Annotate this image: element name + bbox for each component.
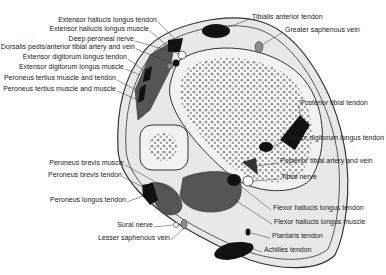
- label-greater-saphenous-vein: Greater saphenous vein: [285, 26, 360, 34]
- tibialis-anterior-tendon: [202, 24, 230, 38]
- greater-saphenous-vein: [255, 42, 263, 53]
- label-fhl-tendon: Flexor hallucis longus tendon: [273, 204, 364, 212]
- label-fdl-tendon: Flexor digitorum longus tendon: [288, 134, 384, 142]
- label-tibial-nerve: Tibial nerve: [281, 173, 317, 181]
- fibula-trabecular: [149, 133, 177, 161]
- label-edl-tendon: Extensor digitorum longus tendon: [23, 53, 127, 61]
- label-lesser-saphenous-vein: Lesser saphenous vein: [98, 234, 170, 242]
- label-ehl-muscle: Extensor hallucis longus muscle: [49, 25, 149, 33]
- lesser-saphenous-vein: [181, 220, 187, 229]
- label-posterior-tibial-artery-vein: Posterior tibial artery and vein: [280, 157, 373, 165]
- label-tibialis-anterior-tendon: Tibialis anterior tendon: [252, 13, 323, 21]
- label-ehl-tendon: Extensor hallucis longus tendon: [58, 16, 157, 24]
- fdl-tendon: [259, 142, 273, 152]
- dorsalis-pedis-artery: [173, 60, 180, 67]
- label-fhl-muscle: Flexor hallucis longus muscle: [274, 218, 365, 226]
- plantaris-tendon: [246, 229, 251, 236]
- tibial-nerve: [243, 176, 253, 186]
- label-dorsalis-pedis: Dorsalis pedis/anterior tibial artery an…: [1, 43, 135, 51]
- label-sural-nerve: Sural nerve: [117, 221, 153, 229]
- label-peroneus-brevis-muscle: Peroneus brevis muscle: [49, 159, 124, 167]
- label-peroneus-brevis-tendon: Peroneus brevis tendon: [48, 171, 122, 179]
- label-peroneus-tertius-tendon: Peroneus tertius muscle and tendon: [4, 74, 116, 82]
- sural-nerve: [174, 223, 179, 228]
- label-peroneus-tertius-muscle: Peroneus tertius muscle and muscle: [3, 85, 116, 93]
- label-peroneus-longus-tendon: Peroneus longus tendon: [50, 196, 126, 204]
- label-posterior-tibial-tendon: Posterior tibial tendon: [300, 99, 368, 107]
- label-edl-muscle: Extensor digitorum longus muscle: [19, 63, 124, 71]
- label-deep-peroneal-nerve: Deep peroneal nerve: [69, 35, 134, 43]
- label-plantaris-tendon: Plantaris tendon: [272, 232, 323, 240]
- label-achilles-tendon: Achilles tendon: [264, 246, 311, 254]
- anterior-tibial-vein: [167, 63, 173, 69]
- deep-peroneal-nerve: [178, 51, 186, 59]
- fhl-tendon: [227, 174, 241, 186]
